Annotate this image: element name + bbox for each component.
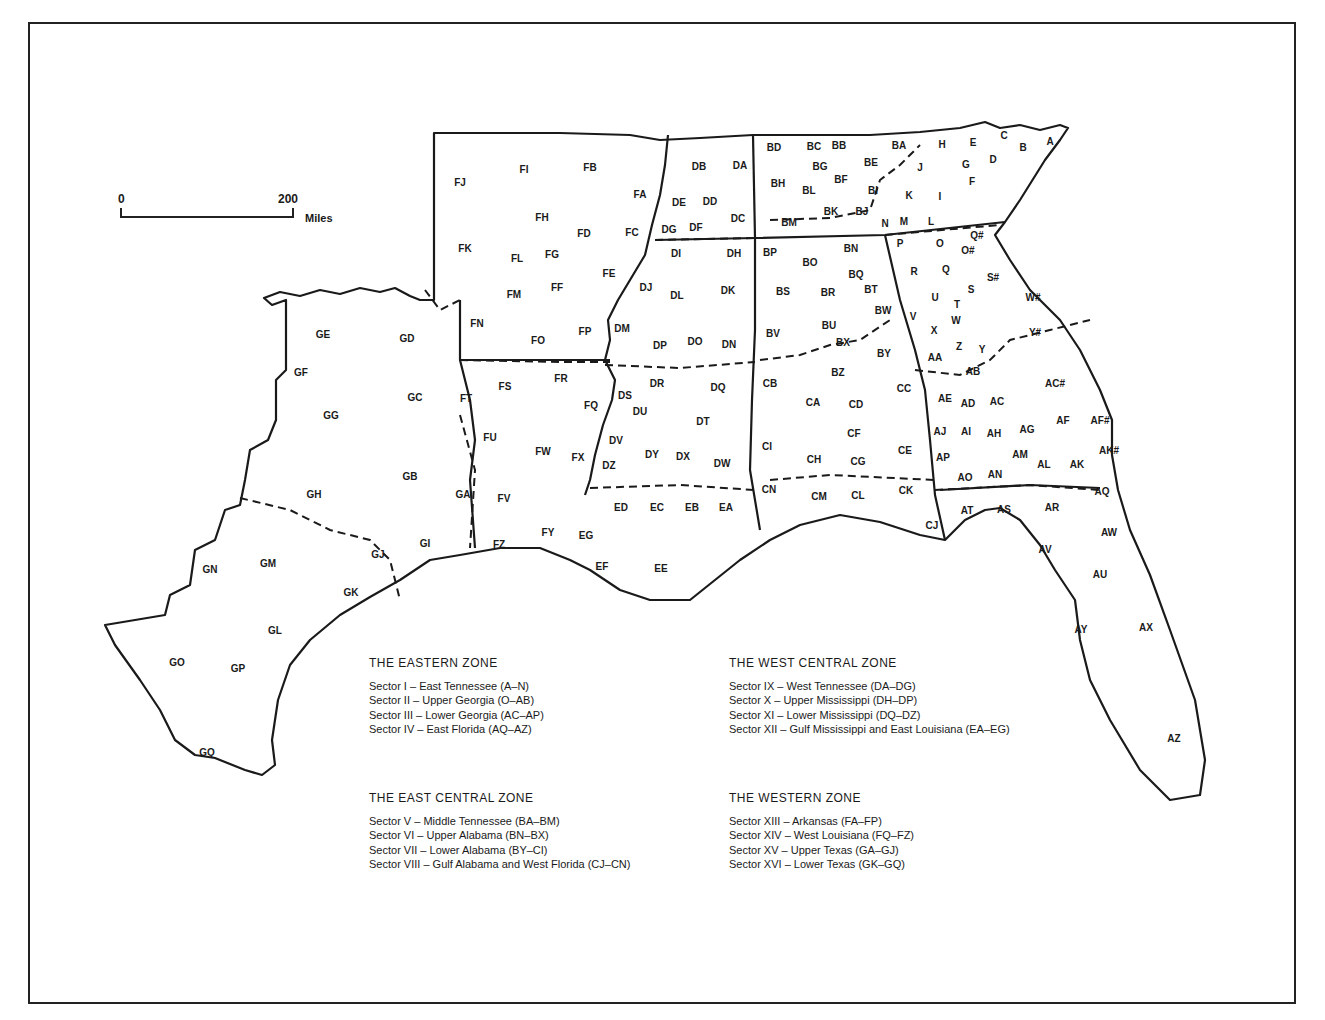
region-label-ap: AP: [936, 452, 950, 463]
state-border: [750, 238, 760, 530]
region-label-cm: CM: [811, 491, 827, 502]
sector-border: [590, 485, 755, 490]
region-label-ga: GA: [456, 489, 471, 500]
sector-item: Sector XIV – West Louisiana (FQ–FZ): [729, 828, 914, 843]
region-label-ck: CK: [899, 485, 914, 496]
region-label-am: AM: [1012, 449, 1028, 460]
region-label-ge: GE: [316, 329, 331, 340]
region-label-t: T: [954, 299, 960, 310]
region-label-bn: BN: [844, 243, 858, 254]
region-label-c: C: [1000, 130, 1007, 141]
region-label-bv: BV: [766, 328, 780, 339]
region-label-bm: BM: [781, 217, 797, 228]
region-label-cc: CC: [897, 383, 911, 394]
region-label-ch: CH: [807, 454, 821, 465]
region-label-f: F: [969, 176, 975, 187]
scale-end-label: 200: [278, 192, 298, 206]
region-label-ad: AD: [961, 398, 975, 409]
region-label-gk: GK: [344, 587, 360, 598]
sector-item: Sector XI – Lower Mississippi (DQ–DZ): [729, 708, 1010, 723]
region-label-bo: BO: [803, 257, 818, 268]
region-label-q: Q: [942, 264, 950, 275]
region-label-fb: FB: [583, 162, 596, 173]
southern-states-sector-map: ABCDEFGHIJKLMNOPQRSTUVWXYZQ#O#S#W#Y#AAAB…: [0, 0, 1325, 1020]
scale-unit-label: Miles: [305, 212, 333, 224]
legend-west-central-zone: THE WEST CENTRAL ZONE Sector IX – West T…: [729, 656, 1010, 737]
region-label-fo: FO: [531, 335, 545, 346]
region-label-bq: BQ: [849, 269, 864, 280]
scale-bar: 0 200 Miles: [110, 192, 370, 232]
region-label-da: DA: [733, 160, 747, 171]
region-label-gd: GD: [400, 333, 415, 344]
region-label-ce: CE: [898, 445, 912, 456]
sector-item: Sector XIII – Arkansas (FA–FP): [729, 814, 914, 829]
region-label-b: B: [1019, 142, 1026, 153]
region-label-at: AT: [961, 505, 974, 516]
region-label-fe: FE: [603, 268, 616, 279]
region-label-dp: DP: [653, 340, 667, 351]
region-label-du: DU: [633, 406, 647, 417]
region-label-dc: DC: [731, 213, 745, 224]
region-label-cg: CG: [851, 456, 866, 467]
region-label-ak-hash: AK#: [1099, 445, 1119, 456]
region-label-z: Z: [956, 341, 962, 352]
region-label-i: I: [939, 191, 942, 202]
region-label-ci: CI: [762, 441, 772, 452]
sector-item: Sector X – Upper Mississippi (DH–DP): [729, 693, 1010, 708]
region-label-w: W: [951, 315, 961, 326]
region-label-gg: GG: [323, 410, 339, 421]
region-label-ba: BA: [892, 140, 906, 151]
scale-start-label: 0: [118, 192, 125, 206]
region-label-as: AS: [997, 504, 1011, 515]
region-label-dn: DN: [722, 339, 736, 350]
scale-bar-line: [120, 208, 294, 218]
region-label-cf: CF: [847, 428, 860, 439]
sector-item: Sector II – Upper Georgia (O–AB): [369, 693, 544, 708]
region-label-y-hash: Y#: [1029, 327, 1042, 338]
region-label-bh: BH: [771, 178, 785, 189]
region-label-db: DB: [692, 161, 706, 172]
region-label-de: DE: [672, 197, 686, 208]
region-label-m: M: [900, 216, 908, 227]
state-border: [753, 135, 755, 238]
region-label-ax: AX: [1139, 622, 1153, 633]
region-label-ee: EE: [654, 563, 668, 574]
region-label-dr: DR: [650, 378, 665, 389]
region-label-ds: DS: [618, 390, 632, 401]
region-label-cd: CD: [849, 399, 863, 410]
region-label-gc: GC: [408, 392, 423, 403]
region-label-gn: GN: [203, 564, 218, 575]
region-label-bi: BI: [868, 185, 878, 196]
region-label-j: J: [917, 162, 923, 173]
region-label-ak: AK: [1070, 459, 1085, 470]
region-label-bp: BP: [763, 247, 777, 258]
region-label-al: AL: [1037, 459, 1050, 470]
region-label-p: P: [897, 238, 904, 249]
region-label-gi: GI: [420, 538, 431, 549]
region-label-bu: BU: [822, 320, 836, 331]
region-label-ae: AE: [938, 393, 952, 404]
region-label-bs: BS: [776, 286, 790, 297]
sector-item: Sector VI – Upper Alabama (BN–BX): [369, 828, 630, 843]
region-label-dw: DW: [714, 458, 731, 469]
region-label-k: K: [905, 190, 913, 201]
region-label-bb: BB: [832, 140, 846, 151]
region-label-by: BY: [877, 348, 891, 359]
sector-item: Sector III – Lower Georgia (AC–AP): [369, 708, 544, 723]
region-label-r: R: [910, 266, 918, 277]
region-label-x: X: [931, 325, 938, 336]
region-label-fh: FH: [535, 212, 548, 223]
region-label-dt: DT: [696, 416, 709, 427]
region-label-dh: DH: [727, 248, 741, 259]
region-label-ay: AY: [1075, 624, 1088, 635]
region-label-fr: FR: [554, 373, 568, 384]
region-label-ca: CA: [806, 397, 820, 408]
region-label-df: DF: [689, 222, 702, 233]
region-label-o-hash: O#: [961, 245, 975, 256]
sector-item: Sector XVI – Lower Texas (GK–GQ): [729, 857, 914, 872]
region-label-bg: BG: [813, 161, 828, 172]
region-label-gj: GJ: [371, 549, 384, 560]
legend-east-central-zone: THE EAST CENTRAL ZONE Sector V – Middle …: [369, 791, 630, 872]
region-label-bx: BX: [836, 337, 850, 348]
region-label-be: BE: [864, 157, 878, 168]
